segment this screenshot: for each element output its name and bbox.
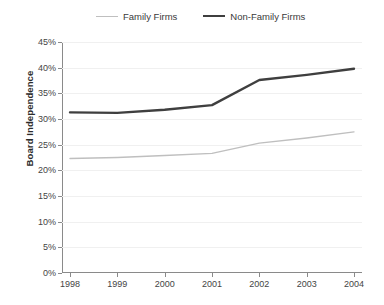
x-tick-mark [117, 273, 118, 277]
x-tick-mark [165, 273, 166, 277]
y-tick-label: 25% [38, 140, 56, 150]
x-tick-mark [307, 273, 308, 277]
x-tick-label: 2003 [297, 279, 317, 289]
chart-legend: Family Firms Non-Family Firms [96, 8, 328, 24]
x-tick-mark [212, 273, 213, 277]
y-tick-mark [58, 273, 62, 274]
x-tick-label: 2002 [249, 279, 269, 289]
y-tick-label: 35% [38, 88, 56, 98]
y-tick-label: 20% [38, 165, 56, 175]
x-tick-label: 2004 [344, 279, 364, 289]
x-tick-mark [259, 273, 260, 277]
x-tick-label: 2001 [202, 279, 222, 289]
x-tick-label: 1999 [107, 279, 127, 289]
x-tick-mark [70, 273, 71, 277]
series-line-non-family-firms [70, 69, 354, 113]
y-tick-label: 40% [38, 63, 56, 73]
legend-item-non-family-firms[interactable]: Non-Family Firms [203, 11, 305, 22]
series-line-family-firms [70, 132, 354, 159]
x-tick-mark [354, 273, 355, 277]
board-independence-line-chart: Family Firms Non-Family Firms Board Inde… [0, 0, 384, 305]
y-tick-label: 10% [38, 217, 56, 227]
plot-area: 0%5%10%15%20%25%30%35%40%45% 19981999200… [62, 42, 362, 273]
y-tick-label: 0% [43, 268, 56, 278]
y-tick-label: 30% [38, 114, 56, 124]
y-axis-title: Board Independence [24, 39, 35, 199]
series-lines [62, 42, 362, 273]
y-tick-label: 45% [38, 37, 56, 47]
legend-line-swatch-family-firms [96, 16, 118, 17]
legend-label-non-family-firms: Non-Family Firms [230, 11, 305, 22]
y-tick-label: 5% [43, 242, 56, 252]
y-tick-label: 15% [38, 191, 56, 201]
legend-line-swatch-non-family-firms [203, 15, 225, 17]
legend-label-family-firms: Family Firms [123, 11, 177, 22]
x-tick-label: 2000 [155, 279, 175, 289]
x-tick-label: 1998 [60, 279, 80, 289]
legend-item-family-firms[interactable]: Family Firms [96, 11, 177, 22]
